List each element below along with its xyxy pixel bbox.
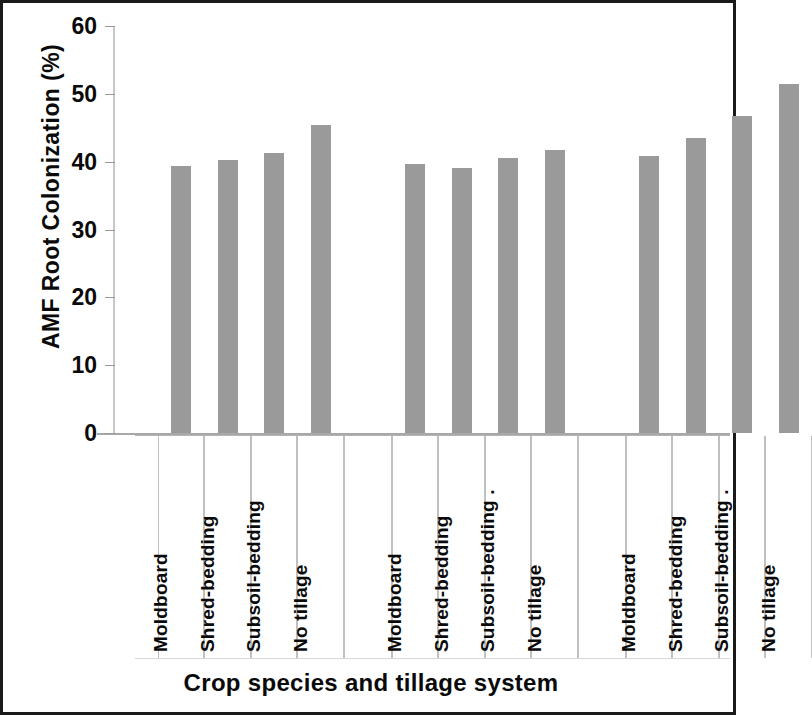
x-axis-tick-label: Subsoil-bedding .	[711, 489, 733, 652]
bar	[545, 150, 565, 433]
x-axis-tick-label: No tillage	[524, 564, 546, 652]
bar	[498, 158, 518, 433]
x-axis-label-cell: No tillage	[765, 436, 812, 658]
x-axis-tick-label: Moldboard	[384, 553, 406, 652]
y-axis-tick-mark	[105, 365, 115, 366]
y-axis-tick-label: 50	[49, 82, 97, 105]
y-axis-tick-mark	[105, 26, 115, 27]
bar	[779, 84, 799, 433]
x-axis-tick-label: Moldboard	[618, 553, 640, 652]
x-axis-tick-label: Subsoil-bedding	[243, 500, 265, 652]
x-axis-tick-label: Shred-bedding	[197, 515, 219, 652]
x-axis-title: Crop species and tillage system	[3, 669, 739, 697]
x-axis-tick-label: Shred-bedding	[431, 515, 453, 652]
y-axis-tick-label: 30	[49, 218, 97, 241]
y-axis-tick-label: 40	[49, 150, 97, 173]
x-axis-tick-label: Subsoil-bedding .	[477, 489, 499, 652]
bar	[218, 160, 238, 433]
bar	[639, 156, 659, 433]
y-axis-tick-mark	[105, 94, 115, 95]
x-axis-label-table: MoldboardShred-beddingSubsoil-beddingNo …	[135, 435, 730, 659]
y-axis-tick-label-group: 6050403020100	[49, 3, 97, 715]
y-axis-tick-label: 60	[49, 15, 97, 38]
plot-area	[115, 26, 730, 433]
bar	[732, 116, 752, 433]
y-axis-tick-mark	[105, 162, 115, 163]
bar	[171, 166, 191, 433]
x-axis-tick-label: Moldboard	[150, 553, 172, 652]
bar	[452, 168, 472, 433]
y-axis-tick-label: 10	[49, 354, 97, 377]
bar	[686, 138, 706, 433]
x-axis-tick-label: Shred-bedding	[665, 515, 687, 652]
y-axis-tick-mark	[105, 433, 115, 434]
bar	[311, 125, 331, 433]
y-axis-tick-label: 0	[49, 422, 97, 445]
x-axis-tick-label: No tillage	[290, 564, 312, 652]
x-axis-label-cell: No tillage	[297, 436, 344, 658]
bar	[264, 153, 284, 433]
x-axis-label-cell: No tillage	[531, 436, 578, 658]
y-axis-tick-label: 20	[49, 286, 97, 309]
y-axis-tick-mark	[105, 230, 115, 231]
x-axis-tick-label: No tillage	[758, 564, 780, 652]
y-axis-tick-mark	[105, 297, 115, 298]
bar	[405, 164, 425, 433]
